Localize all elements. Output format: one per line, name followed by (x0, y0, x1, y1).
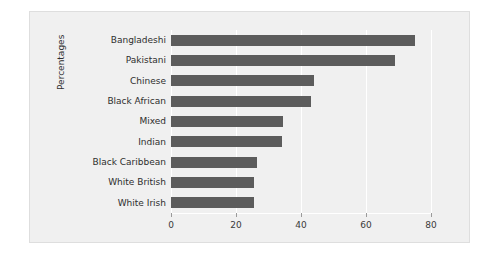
bar-indian[interactable] (171, 136, 282, 147)
plot-area (171, 30, 431, 213)
bar-row (171, 172, 431, 192)
bar-row (171, 30, 431, 50)
bar-row (171, 111, 431, 131)
bar-black-caribbean[interactable] (171, 157, 257, 168)
bar-black-african[interactable] (171, 96, 311, 107)
bar-row (171, 132, 431, 152)
y-tick-label-indian: Indian (138, 137, 166, 148)
x-tick-label-40: 40 (286, 219, 316, 231)
bar-white-british[interactable] (171, 177, 254, 188)
chart-panel: Percentages BangladeshiPakistaniChineseB… (29, 11, 470, 243)
y-tick-label-black-caribbean: Black Caribbean (93, 157, 166, 168)
bar-row (171, 71, 431, 91)
x-tick-mark-80 (431, 213, 432, 217)
bar-row (171, 91, 431, 111)
x-tick-label-20: 20 (221, 219, 251, 231)
bar-row (171, 193, 431, 213)
bar-row (171, 152, 431, 172)
x-tick-mark-60 (366, 213, 367, 217)
x-tick-mark-20 (236, 213, 237, 217)
gridline-x-80 (431, 30, 432, 213)
bar-bangladeshi[interactable] (171, 35, 415, 46)
bar-chinese[interactable] (171, 75, 314, 86)
y-tick-label-pakistani: Pakistani (126, 55, 166, 66)
bar-mixed[interactable] (171, 116, 283, 127)
x-tick-label-80: 80 (416, 219, 446, 231)
y-axis-tick-labels: BangladeshiPakistaniChineseBlack African… (30, 30, 166, 213)
x-tick-mark-0 (171, 213, 172, 217)
y-tick-label-bangladeshi: Bangladeshi (111, 35, 166, 46)
bar-white-irish[interactable] (171, 197, 254, 208)
y-tick-label-mixed: Mixed (139, 116, 166, 127)
bar-row (171, 50, 431, 70)
x-tick-label-0: 0 (156, 219, 186, 231)
y-tick-label-white-irish: White Irish (118, 198, 166, 209)
chart-figure: Percentages BangladeshiPakistaniChineseB… (0, 0, 499, 264)
bar-pakistani[interactable] (171, 55, 395, 66)
y-tick-label-chinese: Chinese (130, 76, 166, 87)
y-tick-label-white-british: White British (108, 177, 166, 188)
x-tick-label-60: 60 (351, 219, 381, 231)
x-tick-mark-40 (301, 213, 302, 217)
y-tick-label-black-african: Black African (107, 96, 166, 107)
